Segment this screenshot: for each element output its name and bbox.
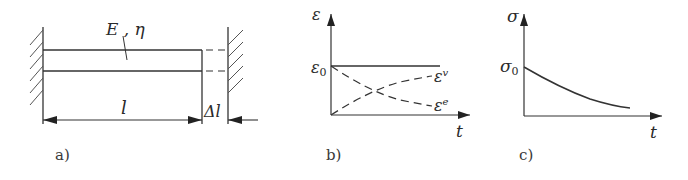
bar-extension-dashed <box>206 50 228 71</box>
material-leader-line <box>123 36 127 60</box>
elongation-label: Δl <box>203 102 221 121</box>
caption-b: b) <box>326 146 341 164</box>
caption-a: a) <box>55 146 70 164</box>
epsilon-zero-label: ε0 <box>311 58 327 79</box>
time-axis-label-c: t <box>650 122 657 142</box>
sigma-zero-label: σ0 <box>500 56 519 78</box>
stress-axis-label: σ <box>507 6 519 26</box>
elastic-strain-curve <box>331 66 432 106</box>
right-wall <box>228 27 243 124</box>
length-label: l <box>121 97 127 118</box>
panel-b-strain-plot: ε t ε0 εv εe b) <box>311 5 470 164</box>
material-label: E , η <box>105 19 146 39</box>
panel-a-bar-schematic: E , η l Δl a) <box>30 19 258 164</box>
time-axis-label-b: t <box>456 121 463 141</box>
elastic-strain-label: εe <box>434 96 449 115</box>
viscous-strain-curve <box>331 76 432 115</box>
caption-c: c) <box>519 146 533 164</box>
length-dimension <box>43 116 258 124</box>
strain-axis-label: ε <box>312 5 321 24</box>
stress-relaxation-curve <box>524 67 630 108</box>
strain-axes <box>331 14 470 115</box>
viscous-strain-label: εv <box>434 67 449 86</box>
panel-c-stress-plot: σ t σ0 c) <box>500 6 662 164</box>
left-wall <box>30 27 43 124</box>
viscoelastic-diagram: E , η l Δl a) ε t ε0 εv <box>0 0 688 180</box>
